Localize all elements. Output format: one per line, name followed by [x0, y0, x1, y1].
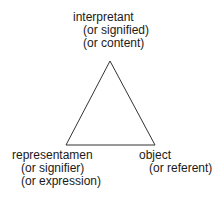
interpretant-label-group: interpretant (or signified) (or content) [73, 11, 149, 50]
semiotic-triangle [66, 61, 155, 145]
referent-label: (or referent) [139, 162, 212, 175]
content-label: (or content) [73, 37, 149, 50]
object-label-group: object (or referent) [139, 149, 212, 175]
representamen-label-group: representamen (or signifier) (or express… [12, 149, 101, 188]
expression-label: (or expression) [12, 175, 101, 188]
